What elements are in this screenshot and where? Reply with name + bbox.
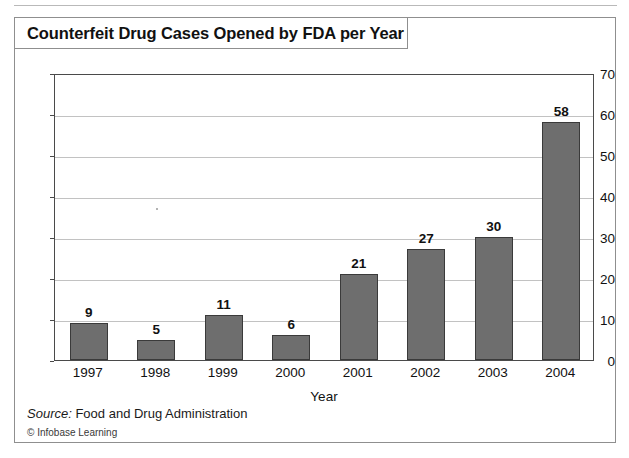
source-note: Source: Food and Drug Administration xyxy=(27,406,247,421)
bar-2002[interactable] xyxy=(407,249,445,360)
copyright-note: © Infobase Learning xyxy=(27,427,117,438)
x-axis-tick-label: 1997 xyxy=(73,365,103,380)
bar-value-label: 5 xyxy=(152,322,160,337)
bar-2001[interactable] xyxy=(340,274,378,360)
bar-value-label: 6 xyxy=(287,317,295,332)
y-axis-tick-mark xyxy=(50,156,54,157)
bar-value-label: 11 xyxy=(217,297,231,312)
bar-value-label: 30 xyxy=(486,219,501,234)
y-axis-tick-mark xyxy=(50,238,54,239)
bar-value-label: 9 xyxy=(85,305,93,320)
y-axis-tick-label: 70 xyxy=(581,67,615,82)
x-axis-tick-label: 2001 xyxy=(343,365,373,380)
bar-slot: 6 xyxy=(258,75,326,360)
plot-area: 9511621273058 xyxy=(54,74,594,361)
page-title: Counterfeit Drug Cases Opened by FDA per… xyxy=(15,24,404,43)
y-axis-tick-label: 40 xyxy=(581,190,615,205)
x-axis-tick-label: 2000 xyxy=(275,365,305,380)
plot-container: 9511621273058 Year 010203040506070199719… xyxy=(15,49,615,442)
bar-slot: 21 xyxy=(325,75,393,360)
y-axis-tick-mark xyxy=(50,279,54,280)
bar-slot: 9 xyxy=(55,75,123,360)
x-axis-tick-label: 2004 xyxy=(545,365,575,380)
y-axis-tick-mark xyxy=(50,115,54,116)
bar-value-label: 21 xyxy=(351,256,366,271)
bar-2003[interactable] xyxy=(475,237,513,360)
bar-slot: 11 xyxy=(190,75,258,360)
chart-title-box: Counterfeit Drug Cases Opened by FDA per… xyxy=(15,18,408,49)
y-axis-tick-label: 50 xyxy=(581,149,615,164)
y-axis-tick-mark xyxy=(50,361,54,362)
page-top-rule xyxy=(14,5,617,6)
source-label: Source: xyxy=(27,406,72,421)
bar-slot: 5 xyxy=(123,75,191,360)
bar-1999[interactable] xyxy=(205,315,243,360)
bar-2004[interactable] xyxy=(542,122,580,360)
figure-frame: Counterfeit Drug Cases Opened by FDA per… xyxy=(14,17,616,443)
y-axis-tick-mark xyxy=(50,74,54,75)
y-axis-tick-label: 20 xyxy=(581,272,615,287)
source-value: Food and Drug Administration xyxy=(72,406,248,421)
y-axis-tick-label: 0 xyxy=(581,354,615,369)
bars-layer: 9511621273058 xyxy=(55,75,593,360)
x-axis-tick-label: 1998 xyxy=(140,365,170,380)
x-axis-tick-label: 1999 xyxy=(208,365,238,380)
bar-slot: 30 xyxy=(460,75,528,360)
y-axis xyxy=(15,74,50,361)
bar-value-label: 27 xyxy=(419,231,434,246)
y-axis-tick-mark xyxy=(50,197,54,198)
bar-2000[interactable] xyxy=(272,335,310,360)
x-axis-tick-label: 2002 xyxy=(410,365,440,380)
bar-1998[interactable] xyxy=(137,340,175,361)
bar-value-label: 58 xyxy=(554,104,569,119)
x-axis-tick-label: 2003 xyxy=(478,365,508,380)
x-axis-title: Year xyxy=(54,389,594,404)
figure-page: Counterfeit Drug Cases Opened by FDA per… xyxy=(0,0,629,458)
bar-slot: 27 xyxy=(393,75,461,360)
y-axis-tick-mark xyxy=(50,320,54,321)
bar-1997[interactable] xyxy=(70,323,108,360)
y-axis-tick-label: 10 xyxy=(581,313,615,328)
y-axis-tick-label: 30 xyxy=(581,231,615,246)
y-axis-tick-label: 60 xyxy=(581,108,615,123)
